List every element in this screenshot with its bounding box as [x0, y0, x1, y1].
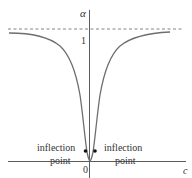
x-axis-label: c [183, 165, 188, 176]
left-annotation-line2: point [50, 155, 71, 166]
right-annotation-line1: inflection [104, 142, 142, 153]
asymptote-value-label: 1 [81, 35, 86, 46]
origin-label: 0 [83, 164, 88, 175]
inflection-point-left [84, 149, 88, 153]
left-annotation-line1: inflection [37, 142, 75, 153]
y-axis-label: α [80, 7, 86, 19]
inflection-point-right [93, 149, 97, 153]
diagram-canvas: α 1 0 c inflection point inflection poin… [0, 0, 192, 178]
right-annotation-line2: point [115, 155, 136, 166]
